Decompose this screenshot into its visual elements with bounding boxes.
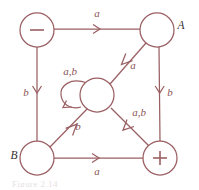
node-label-a: A xyxy=(176,19,185,31)
state-node-center[interactable] xyxy=(80,78,114,112)
figure-container: A B a b a b b a a,b a,b Figure 2.14 xyxy=(0,0,199,190)
edge-label-B-to-plus: a xyxy=(94,165,100,177)
node-label-b: B xyxy=(10,149,17,161)
state-node-b[interactable] xyxy=(20,141,54,175)
edge-label-A-to-plus: b xyxy=(167,86,173,98)
edge-B-to-plus xyxy=(54,154,143,163)
edge-label-center-self-loop: a,b xyxy=(63,65,77,77)
edge-label-A-to-center: a xyxy=(130,59,136,71)
edge-minus-to-B xyxy=(33,47,42,141)
edge-minus-to-A xyxy=(54,25,140,34)
edge-label-minus-to-B: b xyxy=(23,86,29,98)
edge-label-minus-to-A: a xyxy=(94,7,100,19)
state-node-a[interactable] xyxy=(140,13,174,47)
edge-A-to-center xyxy=(110,43,146,84)
figure-caption: Figure 2.14 xyxy=(12,180,104,187)
edge-A-to-plus xyxy=(155,47,164,141)
edge-label-B-to-center: b xyxy=(75,120,81,132)
edge-label-plus-to-center: a,b xyxy=(132,106,146,118)
edge-B-to-center xyxy=(50,108,88,147)
automaton-diagram: A B a b a b b a a,b a,b xyxy=(0,0,199,190)
